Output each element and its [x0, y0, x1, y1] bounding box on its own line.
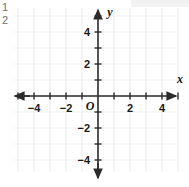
y-tick-label: 2 [84, 58, 90, 70]
y-tick-label: 4 [84, 26, 91, 38]
origin-label: O [86, 99, 95, 113]
x-tick-label: 4 [159, 102, 166, 114]
y-tick-label: −2 [77, 122, 90, 134]
x-tick-label: −2 [60, 102, 73, 114]
axis-lines [15, 10, 176, 178]
y-axis-label: y [105, 5, 113, 19]
x-tick-label: −4 [28, 102, 41, 114]
coordinate-plane-figure: 1 2 −4−22442−2−4 x [0, 0, 189, 187]
graph-canvas: −4−22442−2−4 x y O [0, 0, 189, 187]
y-tick-label: −4 [77, 154, 90, 166]
x-axis-label: x [176, 72, 183, 86]
x-tick-label: 2 [127, 102, 133, 114]
